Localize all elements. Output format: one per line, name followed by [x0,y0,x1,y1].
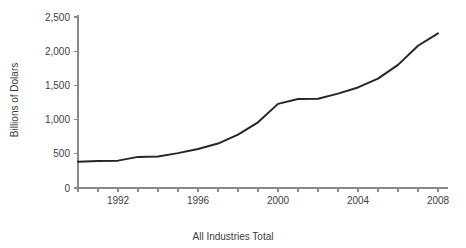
y-tick-label: 2,500 [45,12,70,23]
series-line-all-industries-total [78,33,438,161]
x-tick-label: 2000 [267,195,290,206]
y-axis-title: Billions of Dolars [9,63,20,137]
y-tick-label: 500 [53,148,70,159]
chart-canvas: 05001,0001,5002,0002,500 199219962000200… [0,0,466,248]
x-tick-label: 1996 [187,195,210,206]
y-tick-label: 2,000 [45,46,70,57]
x-tick-group: 19921996200020042008 [78,188,450,206]
line-chart: 05001,0001,5002,0002,500 199219962000200… [0,0,466,248]
y-tick-label: 0 [64,183,70,194]
y-tick-group: 05001,0001,5002,0002,500 [45,12,78,194]
x-axis-group: 19921996200020042008 [78,188,450,206]
x-tick-label: 1992 [107,195,130,206]
x-tick-label: 2004 [347,195,370,206]
y-axis-group: 05001,0001,5002,0002,500 [45,12,78,194]
series-group [78,33,438,161]
y-tick-label: 1,500 [45,80,70,91]
x-tick-label: 2008 [427,195,450,206]
y-tick-label: 1,000 [45,114,70,125]
x-axis-title: All Industries Total [193,231,274,242]
